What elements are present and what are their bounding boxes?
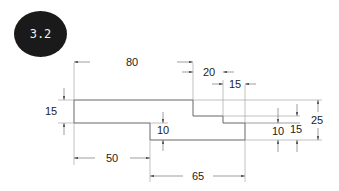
dim-inner-drop: 10 bbox=[157, 124, 169, 136]
dim-top-length: 80 bbox=[126, 56, 138, 68]
technical-drawing: 80 20 15 15 10 10 15 25 50 65 bbox=[0, 0, 339, 191]
dim-right-10: 10 bbox=[272, 125, 284, 137]
dim-step-15: 15 bbox=[229, 78, 241, 90]
dimension-lines bbox=[64, 62, 318, 176]
dim-bottom-65: 65 bbox=[192, 170, 204, 182]
dim-left-height: 15 bbox=[45, 105, 57, 117]
dim-step-20: 20 bbox=[203, 66, 215, 78]
dimension-labels: 80 20 15 15 10 10 15 25 50 65 bbox=[45, 56, 323, 182]
dim-right-25: 25 bbox=[311, 114, 323, 126]
dim-right-15: 15 bbox=[290, 123, 302, 135]
dim-bottom-50: 50 bbox=[106, 152, 118, 164]
